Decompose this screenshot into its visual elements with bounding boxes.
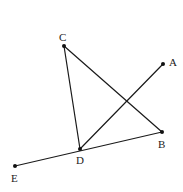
geometry-diagram: ABCDE [0, 0, 183, 192]
segments [15, 46, 163, 166]
segment-da [80, 64, 163, 149]
segment-cb [64, 46, 162, 132]
label-e: E [11, 172, 18, 184]
label-c: C [59, 31, 66, 43]
label-b: B [158, 138, 165, 150]
point-a [161, 62, 165, 66]
segment-eb [15, 132, 162, 166]
point-d [78, 147, 82, 151]
point-e [13, 164, 17, 168]
label-d: D [76, 154, 84, 166]
segment-cd [64, 46, 80, 149]
point-b [160, 130, 164, 134]
point-c [62, 44, 66, 48]
label-a: A [169, 56, 177, 68]
